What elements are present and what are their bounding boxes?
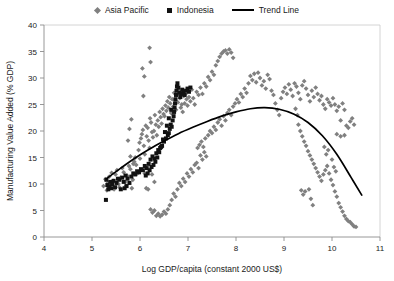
x-tick-label: 11 bbox=[376, 244, 385, 253]
data-point-indonesia bbox=[176, 86, 180, 90]
y-tick-label: 40 bbox=[28, 21, 37, 30]
data-point-indonesia bbox=[175, 81, 179, 85]
x-tick-label: 6 bbox=[138, 244, 143, 253]
data-point-indonesia bbox=[157, 150, 161, 154]
data-point-indonesia bbox=[123, 186, 127, 190]
y-tick-label: 0 bbox=[33, 233, 38, 242]
y-tick-label: 15 bbox=[28, 154, 37, 163]
data-point-indonesia bbox=[173, 101, 177, 105]
scatter-plot: 0510152025303540 4567891011 Log GDP/capi… bbox=[0, 0, 394, 281]
data-point-indonesia bbox=[171, 118, 175, 122]
data-point-indonesia bbox=[170, 125, 174, 129]
data-point-indonesia bbox=[188, 86, 192, 90]
x-tick-label: 8 bbox=[234, 244, 239, 253]
data-point-indonesia bbox=[163, 130, 167, 134]
x-axis-title: Log GDP/capita (constant 2000 US$) bbox=[142, 264, 282, 274]
data-point-indonesia bbox=[169, 108, 173, 112]
y-tick-label: 35 bbox=[28, 48, 37, 57]
data-point-indonesia bbox=[167, 116, 171, 120]
data-point-indonesia bbox=[144, 174, 148, 178]
data-point-indonesia bbox=[159, 145, 163, 149]
y-tick-label: 5 bbox=[33, 207, 38, 216]
data-point-indonesia bbox=[165, 124, 169, 128]
data-point-indonesia bbox=[109, 186, 113, 190]
data-point-indonesia bbox=[187, 90, 191, 94]
x-tick-label: 4 bbox=[42, 244, 47, 253]
data-point-indonesia bbox=[113, 185, 117, 189]
y-axis-title: Manufacturing Value Added (% GDP) bbox=[5, 61, 15, 201]
data-point-indonesia bbox=[155, 156, 159, 160]
x-axis-ticks: 4567891011 bbox=[42, 237, 385, 253]
data-point-indonesia bbox=[126, 177, 130, 181]
y-tick-label: 20 bbox=[28, 127, 37, 136]
x-tick-label: 7 bbox=[186, 244, 191, 253]
x-tick-label: 5 bbox=[90, 244, 95, 253]
y-axis-ticks: 0510152025303540 bbox=[28, 21, 44, 242]
data-point-indonesia bbox=[183, 93, 187, 97]
data-point-indonesia bbox=[174, 97, 178, 101]
y-tick-label: 25 bbox=[28, 101, 37, 110]
data-point-indonesia bbox=[104, 198, 108, 202]
data-point-indonesia bbox=[122, 180, 126, 184]
y-tick-label: 10 bbox=[28, 180, 37, 189]
data-point-indonesia bbox=[119, 187, 123, 191]
data-point-indonesia bbox=[141, 168, 145, 172]
x-tick-label: 9 bbox=[282, 244, 287, 253]
data-point-indonesia bbox=[172, 114, 176, 118]
x-tick-label: 10 bbox=[328, 244, 337, 253]
y-tick-label: 30 bbox=[28, 74, 37, 83]
chart-container: Asia Pacific Indonesia Trend Line 051015… bbox=[0, 0, 394, 281]
data-point-indonesia bbox=[167, 131, 171, 135]
